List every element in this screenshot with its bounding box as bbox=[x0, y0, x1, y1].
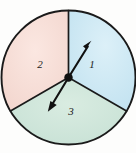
sector-label-3: 3 bbox=[67, 105, 74, 117]
spinner-figure: 1 2 3 bbox=[0, 0, 136, 153]
sector-label-2: 2 bbox=[37, 58, 43, 70]
spinner-canvas: 1 2 3 bbox=[0, 0, 136, 153]
sector-label-1: 1 bbox=[89, 58, 95, 70]
center-hub[interactable] bbox=[64, 73, 72, 81]
